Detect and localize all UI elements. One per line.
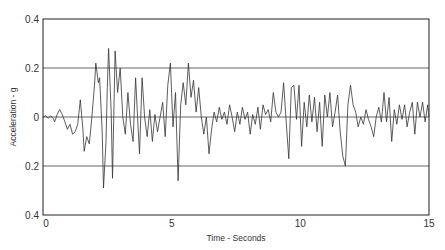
y-tick-label: 0 <box>33 112 39 123</box>
x-tick-label: 5 <box>169 218 175 229</box>
y-axis-label: Acceleration - g <box>8 87 18 146</box>
acceleration-chart: 0.40.200.20.4 051015 Time - Seconds Acce… <box>0 0 445 250</box>
acceleration-trace <box>43 48 429 188</box>
y-tick-label: 0.4 <box>25 14 39 25</box>
y-tick-label: 0.2 <box>25 161 39 172</box>
y-tick-label: 0.2 <box>25 63 39 74</box>
y-axis-ticks: 0.40.200.20.4 <box>25 14 39 221</box>
y-tick-label: 0.4 <box>25 210 39 221</box>
x-tick-label: 15 <box>423 218 435 229</box>
x-axis-ticks: 051015 <box>43 218 435 229</box>
gridlines <box>43 68 429 166</box>
x-axis-label: Time - Seconds <box>206 233 265 243</box>
x-tick-label: 0 <box>43 218 49 229</box>
x-tick-label: 10 <box>295 218 307 229</box>
